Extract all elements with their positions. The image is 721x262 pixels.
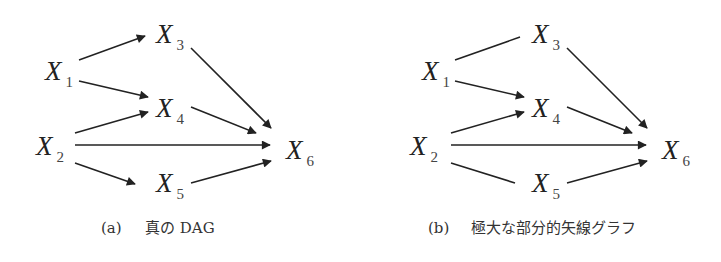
directed-edge-x1-x4	[455, 81, 524, 97]
node-subscript: 2	[57, 149, 65, 165]
node-x2: X2	[35, 131, 64, 165]
node-subscript: 5	[553, 186, 561, 202]
node-subscript: 2	[431, 149, 439, 165]
node-x3: X3	[531, 19, 560, 53]
node-x3: X3	[155, 19, 184, 53]
panel-a-caption-text: 真の DAG	[145, 219, 215, 237]
panel-a-edges	[75, 36, 271, 184]
directed-edge-x2-x5	[75, 163, 135, 184]
directed-edge-x3-x6	[191, 48, 271, 128]
node-subscript: 1	[443, 74, 451, 90]
figure-canvas: X1X2X3X4X5X6 (a) 真の DAG X1X2X3X4X5X6 (b)…	[0, 0, 721, 262]
node-x5: X5	[155, 168, 184, 202]
node-subscript: 6	[307, 153, 315, 169]
directed-edge-x4-x6	[567, 107, 632, 133]
node-x4: X4	[531, 93, 561, 127]
panel-b-edges	[451, 37, 647, 183]
directed-edge-x1-x4	[79, 81, 148, 97]
node-x5: X5	[531, 168, 560, 202]
node-x1: X1	[421, 56, 450, 90]
panel-b-nodes: X1X2X3X4X5X6	[409, 19, 691, 202]
panel-a-nodes: X1X2X3X4X5X6	[35, 19, 315, 202]
node-subscript: 5	[177, 186, 185, 202]
directed-edge-x4-x6	[191, 107, 256, 133]
node-x4: X4	[155, 93, 185, 127]
directed-edge-x3-x6	[567, 48, 647, 128]
node-subscript: 4	[553, 111, 561, 127]
node-subscript: 3	[553, 37, 561, 53]
panel-b: X1X2X3X4X5X6 (b) 極大な部分的矢線グラフ	[409, 19, 691, 237]
directed-edge-x1-x3	[79, 36, 145, 60]
directed-edge-x5-x6	[567, 161, 647, 183]
node-x6: X6	[285, 135, 315, 169]
panel-b-caption-label: (b)	[428, 219, 449, 237]
node-x1: X1	[44, 56, 73, 90]
directed-edge-x5-x6	[191, 161, 271, 183]
directed-edge-x2-x4	[75, 112, 148, 133]
node-subscript: 6	[683, 153, 691, 169]
undirected-edge-x2-x5	[451, 163, 515, 183]
node-x2: X2	[409, 131, 438, 165]
node-subscript: 4	[177, 111, 185, 127]
panel-b-caption-text: 極大な部分的矢線グラフ	[471, 219, 636, 237]
node-subscript: 1	[66, 74, 74, 90]
panel-a-caption-label: (a)	[101, 219, 122, 237]
directed-edge-x2-x4	[451, 112, 524, 133]
panel-a: X1X2X3X4X5X6 (a) 真の DAG	[35, 19, 315, 237]
node-x6: X6	[661, 135, 691, 169]
node-subscript: 3	[177, 37, 185, 53]
undirected-edge-x1-x3	[455, 37, 520, 60]
